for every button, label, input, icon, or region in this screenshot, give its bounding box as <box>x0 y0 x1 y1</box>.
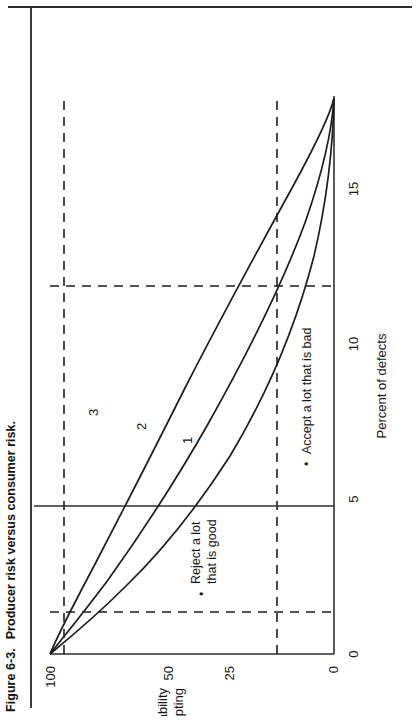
x-tick-label-5: 5 <box>346 495 361 502</box>
reject-good-lot-annotation: • Reject a lot that is good <box>189 519 219 596</box>
x-tick-label-10: 10 <box>346 337 361 351</box>
x-tick-label-0: 0 <box>346 650 361 657</box>
figure-page: Figure 6-3.Producer risk versus consumer… <box>0 0 420 720</box>
page-left-rule <box>30 8 32 708</box>
reject-good-lot-bullet: • <box>195 592 209 596</box>
y-tick-label-50: 50 <box>161 666 176 680</box>
figure-caption: Figure 6-3.Producer risk versus consumer… <box>4 421 18 712</box>
figure-number: Figure 6-3. <box>4 648 18 712</box>
y-axis-title-line-2: of accepting <box>171 688 186 716</box>
y-axis-title: Probability of accepting <box>155 688 186 716</box>
accept-bad-lot-bullet: • <box>300 462 314 466</box>
x-axis-title: Percent of defects <box>374 333 389 438</box>
y-tick-label-25: 25 <box>222 666 237 680</box>
accept-bad-lot-line-1: Accept a lot that is bad <box>300 327 314 454</box>
x-tick-label-15: 15 <box>346 182 361 196</box>
oc-curve-chart: AQL 1 2 3 • Reject a lot that is good • … <box>34 26 416 716</box>
y-tick-label-100: 100 <box>43 666 58 688</box>
y-tick-label-0: 0 <box>326 666 341 673</box>
page-top-rule <box>8 6 412 8</box>
curve-2-label: 2 <box>134 423 149 430</box>
reject-good-lot-line-2: that is good <box>205 519 219 584</box>
curve-1-label: 1 <box>180 437 195 444</box>
chart-svg: AQL 1 2 3 • Reject a lot that is good • … <box>34 26 416 716</box>
figure-title: Producer risk versus consumer risk. <box>4 421 18 639</box>
accept-bad-lot-annotation: • Accept a lot that is bad <box>300 327 314 466</box>
y-axis-title-line-1: Probability <box>155 688 170 716</box>
reject-good-lot-line-1: Reject a lot <box>189 521 203 584</box>
curve-3-label: 3 <box>86 409 101 416</box>
